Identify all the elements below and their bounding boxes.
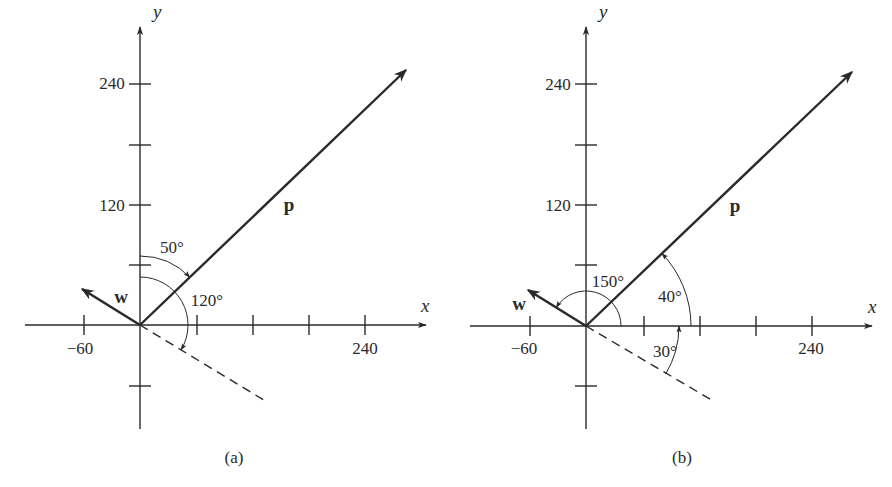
- angle-arcs: 50°120°: [140, 238, 223, 350]
- x-axis-name: x: [867, 296, 877, 317]
- vector-w-label: w: [512, 293, 526, 314]
- vector-p-label: p: [730, 195, 741, 216]
- vector-w-label: w: [114, 286, 128, 307]
- angle-label: 50°: [160, 238, 184, 257]
- panel-b: x y −60240 240120 150°40°30° p w (b): [470, 1, 877, 467]
- x-tick-label: −60: [511, 339, 538, 358]
- vector-p: [140, 70, 406, 325]
- angle-arc: [140, 256, 190, 277]
- angle-label: 40°: [658, 287, 682, 306]
- angle-label: 150°: [592, 272, 624, 291]
- panel-caption-b: (b): [672, 448, 692, 467]
- dashed-reference-line: [586, 326, 715, 402]
- y-ticks: 240120: [99, 74, 151, 386]
- vector-p: [586, 72, 852, 326]
- vector-angle-figure: x y −60240 240120 50°120° p w (a) x y −6…: [0, 0, 892, 487]
- x-axis-name: x: [420, 295, 430, 316]
- angle-arc: [140, 277, 188, 350]
- angle-label: 120°: [191, 291, 223, 310]
- y-tick-label: 240: [99, 74, 125, 93]
- panel-caption-a: (a): [225, 448, 244, 467]
- angle-arc: [556, 291, 621, 326]
- dashed-reference-line: [140, 325, 267, 402]
- x-tick-label: 240: [798, 339, 824, 358]
- y-axis-name: y: [597, 1, 608, 22]
- vector-w: [528, 290, 586, 326]
- figure-canvas: x y −60240 240120 50°120° p w (a) x y −6…: [0, 0, 892, 487]
- y-ticks: 240120: [545, 75, 597, 386]
- x-tick-label: 240: [352, 339, 378, 358]
- y-axis-name: y: [151, 1, 162, 22]
- x-tick-label: −60: [67, 339, 94, 358]
- vector-w: [82, 289, 140, 325]
- y-tick-label: 120: [545, 196, 571, 215]
- panel-a: x y −60240 240120 50°120° p w (a): [25, 1, 430, 467]
- x-ticks: −60240: [67, 315, 378, 358]
- y-tick-label: 240: [545, 75, 571, 94]
- vector-p-label: p: [284, 194, 295, 215]
- angle-label: 30°: [653, 342, 677, 361]
- y-tick-label: 120: [99, 196, 125, 215]
- angle-arcs: 150°40°30°: [556, 253, 691, 374]
